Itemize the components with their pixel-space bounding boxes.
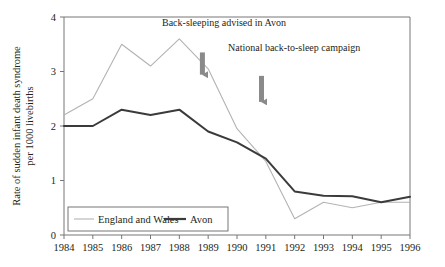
annotation-label: National back-to-sleep campaign <box>228 42 360 53</box>
x-axis-tick-label: 1987 <box>140 242 161 253</box>
x-axis-tick-label: 1996 <box>400 242 421 253</box>
y-axis-title: Rate of sudden infant death syndrome per… <box>11 46 35 206</box>
y-axis-tick-label: 1 <box>51 175 56 186</box>
x-axis-tick-labels: 1984198519861987198819891990199119921993… <box>54 242 421 253</box>
data-series-layer <box>64 39 410 219</box>
x-axis-tick-label: 1994 <box>342 242 364 253</box>
legend: England and Wales Avon <box>68 207 228 231</box>
y-axis-tick-label: 3 <box>51 66 56 77</box>
sids-rate-line-chart-figure: 01234 1984198519861987198819891990199119… <box>0 0 445 267</box>
y-axis-tick-labels: 01234 <box>51 12 57 241</box>
x-axis-tick-label: 1991 <box>255 242 276 253</box>
x-axis-tick-label: 1993 <box>313 242 334 253</box>
x-axis-ticks <box>64 235 410 239</box>
y-axis-tick-label: 2 <box>51 121 56 132</box>
x-axis-tick-label: 1985 <box>82 242 103 253</box>
y-axis-tick-label: 4 <box>51 12 57 23</box>
x-axis-tick-label: 1990 <box>227 242 248 253</box>
series-line-england-and-wales <box>64 39 410 219</box>
annotation-label: Back-sleeping advised in Avon <box>162 17 286 28</box>
x-axis-tick-label: 1988 <box>169 242 190 253</box>
legend-label-avon: Avon <box>190 214 213 225</box>
x-axis-tick-label: 1986 <box>111 242 132 253</box>
x-axis-tick-label: 1992 <box>284 242 305 253</box>
x-axis-tick-label: 1989 <box>198 242 219 253</box>
x-axis-tick-label: 1995 <box>371 242 392 253</box>
series-line-avon <box>64 110 410 203</box>
annotation-layer: Back-sleeping advised in AvonNational ba… <box>162 17 360 102</box>
chart-canvas: 01234 1984198519861987198819891990199119… <box>0 0 445 267</box>
y-axis-title-line2: per 1000 livebirths <box>24 86 35 165</box>
y-axis-title-line1: Rate of sudden infant death syndrome <box>11 46 22 206</box>
x-axis-tick-label: 1984 <box>54 242 76 253</box>
y-axis-tick-label: 0 <box>51 230 56 241</box>
